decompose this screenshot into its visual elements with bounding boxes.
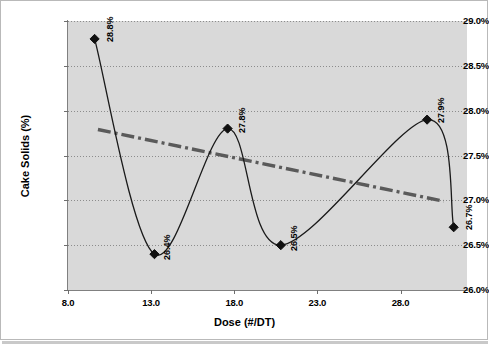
y-tick-label: 27.0% (433, 194, 489, 205)
trendline (98, 129, 444, 201)
x-tick-label: 8.0 (48, 297, 88, 308)
chart-overlay (0, 0, 489, 347)
data-point-label: 27.9% (436, 97, 446, 123)
y-tick-label: 27.5% (433, 150, 489, 161)
y-tick-label: 29.0% (433, 15, 489, 26)
x-axis-title: Dose (#/DT) (0, 316, 489, 328)
data-point-label: 28.8% (105, 16, 115, 42)
x-tick-label: 23.0 (297, 297, 337, 308)
x-tick-label: 18.0 (214, 297, 254, 308)
data-series-line (95, 39, 454, 255)
data-point-label: 27.8% (237, 107, 247, 133)
y-axis-title: Cake Solids (%) (19, 76, 31, 236)
y-tick-label: 26.0% (433, 284, 489, 295)
data-point-label: 26.5% (289, 226, 299, 252)
data-point-label: 26.4% (162, 235, 172, 261)
x-tick-label: 28.0 (381, 297, 421, 308)
y-tick-label: 26.5% (433, 239, 489, 250)
gridlines (68, 22, 467, 246)
x-tick-label: 13.0 (131, 297, 171, 308)
y-tick-label: 28.5% (433, 60, 489, 71)
data-point-label: 26.7% (464, 205, 474, 231)
chart-figure: 26.0%26.5%27.0%27.5%28.0%28.5%29.0% 8.01… (0, 0, 489, 347)
data-point-markers (90, 34, 458, 258)
